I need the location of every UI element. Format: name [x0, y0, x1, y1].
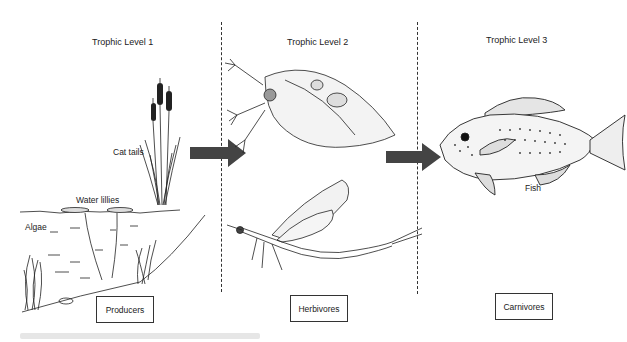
producers-box: Producers — [96, 296, 154, 323]
pond-water-illustration — [0, 200, 220, 310]
trophic-level-2-title: Trophic Level 2 — [287, 37, 348, 47]
pond-producers-illustration — [0, 75, 220, 205]
label-fish: Fish — [525, 183, 541, 193]
caption-cutoff — [20, 333, 260, 339]
label-cat-tails: Cat tails — [113, 147, 144, 157]
water-flea-illustration — [225, 55, 405, 155]
producers-label: Producers — [106, 305, 145, 315]
mayfly-illustration — [222, 180, 422, 290]
herbivores-box: Herbivores — [290, 295, 348, 322]
carnivores-label: Carnivores — [503, 302, 544, 312]
fish-illustration — [440, 95, 627, 195]
herbivores-label: Herbivores — [298, 304, 339, 314]
carnivores-box: Carnivores — [495, 293, 553, 320]
trophic-level-1-title: Trophic Level 1 — [92, 37, 153, 47]
trophic-level-3-title: Trophic Level 3 — [486, 35, 547, 45]
arrow-level2-to-level3 — [386, 142, 446, 172]
